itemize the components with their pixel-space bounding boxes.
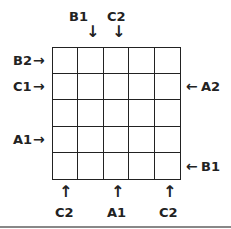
down-arrow-icon: ↓ bbox=[86, 22, 99, 41]
right-arrow-icon: → bbox=[33, 131, 45, 147]
up-arrow-icon: ↑ bbox=[111, 182, 124, 201]
grid-cell bbox=[155, 153, 180, 179]
grid-cell bbox=[104, 127, 129, 153]
up-arrow-icon: ↑ bbox=[59, 182, 72, 201]
grid-cell bbox=[78, 74, 103, 100]
down-arrow-icon: ↓ bbox=[112, 22, 125, 41]
bottom-label-c2: C2 bbox=[55, 206, 74, 219]
grid-cell bbox=[155, 127, 180, 153]
right-label-b1: B1 bbox=[201, 160, 220, 173]
divider bbox=[0, 226, 231, 228]
grid-cell bbox=[53, 153, 78, 179]
grid-cell bbox=[53, 100, 78, 126]
grid-cell bbox=[104, 100, 129, 126]
right-label-a2: A2 bbox=[201, 80, 220, 93]
grid-cell bbox=[129, 127, 154, 153]
left-arrow-icon: ← bbox=[186, 158, 198, 174]
grid-cell bbox=[155, 48, 180, 74]
left-label-b2: B2 bbox=[13, 54, 32, 67]
grid-cell bbox=[78, 100, 103, 126]
grid-cell bbox=[104, 74, 129, 100]
up-arrow-icon: ↑ bbox=[163, 182, 176, 201]
left-label-c1: C1 bbox=[13, 80, 32, 93]
right-arrow-icon: → bbox=[33, 52, 45, 68]
grid-cell bbox=[129, 153, 154, 179]
grid-cell bbox=[129, 74, 154, 100]
bottom-label-c2: C2 bbox=[159, 206, 178, 219]
grid-cell bbox=[155, 100, 180, 126]
grid-cell bbox=[129, 48, 154, 74]
grid-cell bbox=[53, 48, 78, 74]
left-label-a1: A1 bbox=[13, 133, 32, 146]
grid-cell bbox=[155, 74, 180, 100]
bottom-label-a1: A1 bbox=[107, 206, 126, 219]
right-arrow-icon: → bbox=[33, 78, 45, 94]
grid-cell bbox=[78, 127, 103, 153]
grid-cell bbox=[104, 48, 129, 74]
grid-cell bbox=[78, 48, 103, 74]
grid-cell bbox=[53, 127, 78, 153]
grid-cell bbox=[53, 74, 78, 100]
grid-cell bbox=[104, 153, 129, 179]
grid-cell bbox=[78, 153, 103, 179]
left-arrow-icon: ← bbox=[186, 78, 198, 94]
grid-cell bbox=[129, 100, 154, 126]
grid bbox=[52, 47, 181, 180]
